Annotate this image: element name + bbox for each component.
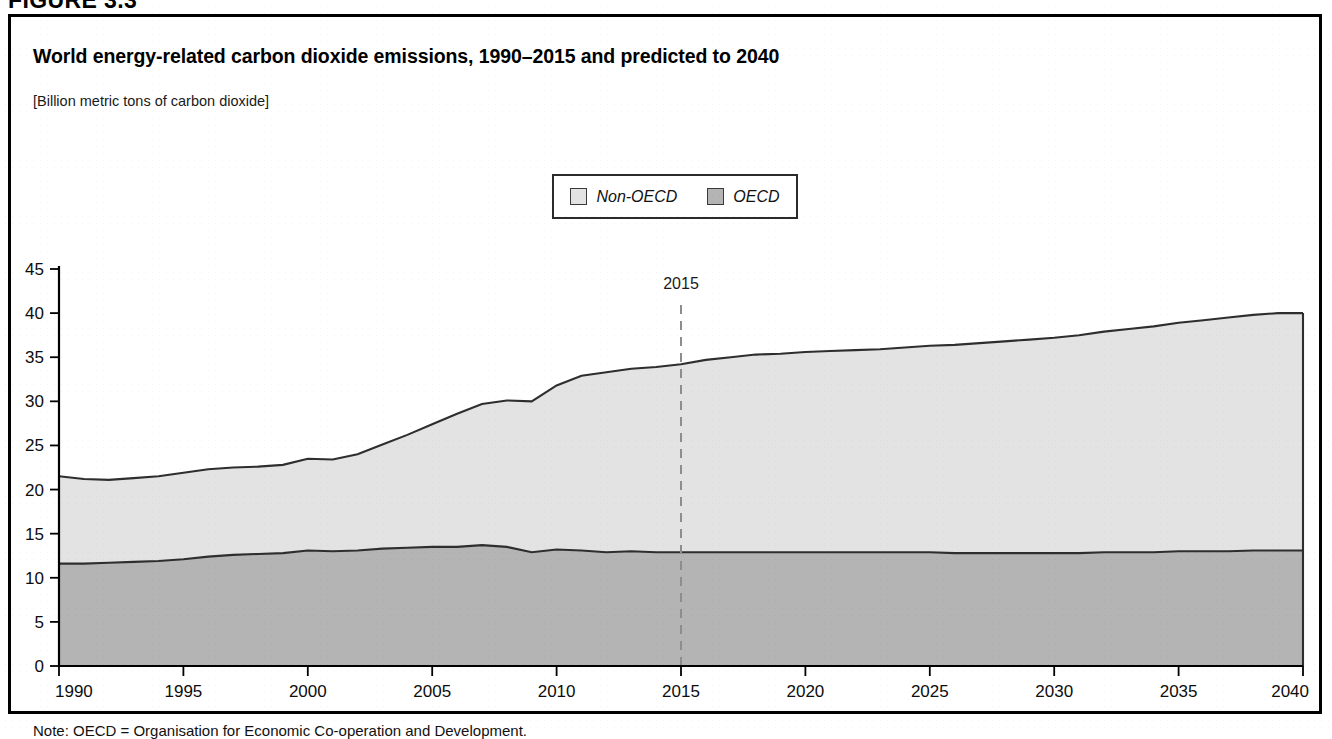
x-tick-label: 2010 [538, 682, 576, 701]
plot-area: 2015051015202530354045199019952000200520… [11, 17, 1325, 717]
y-tick-label: 15 [25, 525, 44, 544]
x-tick-label: 2005 [413, 682, 451, 701]
chart-note: Note: OECD = Organisation for Economic C… [33, 722, 527, 739]
stacked-area-chart: 2015051015202530354045199019952000200520… [11, 17, 1325, 717]
y-tick-label: 45 [25, 260, 44, 279]
x-tick-label: 1990 [55, 682, 93, 701]
x-tick-label: 2025 [911, 682, 949, 701]
y-tick-label: 5 [35, 613, 44, 632]
x-tick-label: 2015 [662, 682, 700, 701]
y-tick-label: 25 [25, 436, 44, 455]
divider-label-2015: 2015 [663, 275, 699, 292]
figure-panel: World energy-related carbon dioxide emis… [8, 14, 1322, 714]
x-tick-label: 2030 [1035, 682, 1073, 701]
y-tick-label: 40 [25, 304, 44, 323]
y-tick-label: 10 [25, 569, 44, 588]
figure-number-label: FIGURE 3.3 [8, 0, 137, 14]
y-tick-label: 35 [25, 348, 44, 367]
x-tick-label: 2040 [1271, 682, 1309, 701]
y-tick-label: 20 [25, 481, 44, 500]
x-tick-label: 2035 [1160, 682, 1198, 701]
y-tick-label: 30 [25, 392, 44, 411]
x-tick-label: 1995 [164, 682, 202, 701]
x-tick-label: 2000 [289, 682, 327, 701]
y-tick-label: 0 [35, 657, 44, 676]
x-tick-label: 2020 [786, 682, 824, 701]
